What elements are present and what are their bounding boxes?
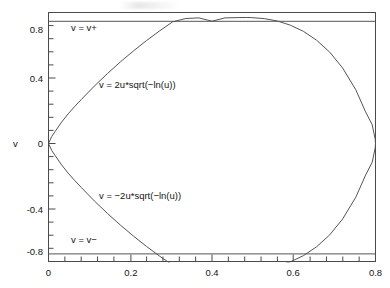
x-tick-label: 0.2	[124, 267, 137, 278]
y-tick-label: 0	[38, 138, 43, 149]
y-tick-label: -0.4	[27, 204, 43, 215]
y-tick-label: -0.8	[27, 246, 43, 257]
below-axis-mask	[0, 263, 390, 288]
x-tick-label: 0	[46, 267, 51, 278]
y-axis-title: v	[13, 138, 18, 149]
ratio-of-uniforms-plot: 0 0.2 0.4 0.6 0.8 0.8 0.4 0 -0.4 -0.8 v …	[0, 0, 390, 288]
upper-curve	[49, 18, 376, 144]
x-tick-label: 0.8	[369, 267, 382, 278]
x-axis-ticks	[49, 255, 376, 262]
lower-curve	[49, 144, 376, 270]
y-tick-labels: 0.8 0.4 0 -0.4 -0.8	[27, 24, 43, 258]
above-axis-mask	[0, 0, 390, 12]
x-tick-label: 0.6	[287, 267, 300, 278]
y-tick-label: 0.8	[30, 24, 43, 35]
x-tick-label: 0.4	[205, 267, 218, 278]
v-minus-label: v = v−	[71, 234, 97, 245]
v-plus-label: v = v+	[71, 22, 97, 33]
lower-curve-label: v = −2u*sqrt(−ln(u))	[99, 190, 181, 201]
upper-curve-label: v = 2u*sqrt(−ln(u))	[99, 79, 176, 90]
y-tick-label: 0.4	[30, 73, 43, 84]
chart-figure: 0 0.2 0.4 0.6 0.8 0.8 0.4 0 -0.4 -0.8 v …	[0, 0, 390, 288]
plot-frame	[49, 13, 376, 262]
